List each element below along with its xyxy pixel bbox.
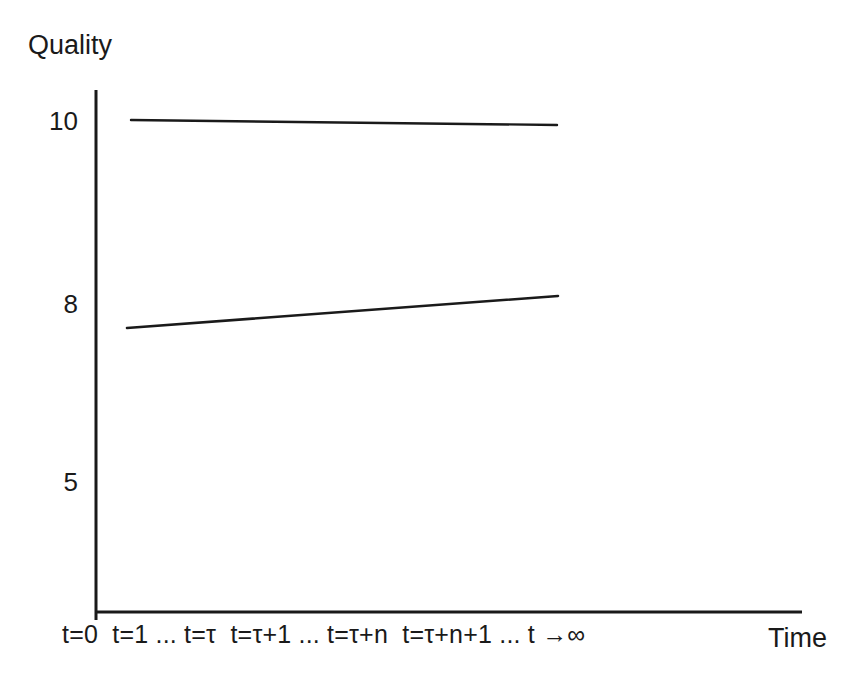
series-lower-line (127, 296, 558, 328)
x-tick-caption: t=0 t=1 ... t=τ t=τ+1 ... t=τ+n t=τ+n+1 … (62, 622, 585, 647)
series-upper-line (131, 120, 557, 125)
x-axis-title: Time (768, 625, 827, 652)
y-axis-title: Quality (28, 32, 112, 59)
y-tick-label-10: 10 (20, 108, 78, 134)
y-tick-label-8: 8 (20, 291, 78, 317)
chart-plot-area (0, 0, 864, 689)
quality-over-time-chart: Quality 10 8 5 t=0 t=1 ... t=τ t=τ+1 ...… (0, 0, 864, 689)
y-tick-label-5: 5 (20, 469, 78, 495)
